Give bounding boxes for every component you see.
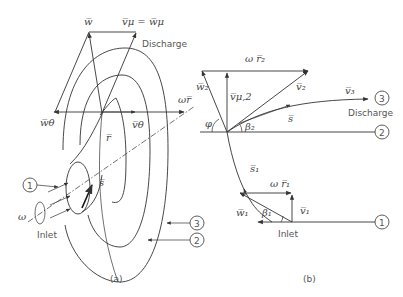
label-omega: ω bbox=[18, 211, 26, 222]
label-inlet-b: Inlet bbox=[278, 229, 298, 239]
label-v-mu2: v̅μ,2 bbox=[230, 91, 252, 102]
label-v-theta: v̅θ bbox=[132, 119, 144, 130]
w-vector bbox=[89, 33, 102, 113]
panel-a: w̅ v̅μ = w̅μ Discharge w̅θ v̅θ ωr̅ r̅ s̅… bbox=[18, 16, 204, 284]
label-discharge-b: Discharge bbox=[348, 108, 394, 118]
panel-b: 2 1 3 ω r̅₂ w̅₂ v̅μ,2 v̅₂ v̅₃ s̅ φ bbox=[196, 53, 394, 284]
marker-1-b-text: 1 bbox=[379, 218, 385, 228]
label-omega-r2: ω r̅₂ bbox=[245, 53, 265, 64]
caption-a: (a) bbox=[110, 274, 123, 284]
label-beta1: β₁ bbox=[261, 207, 272, 218]
marker-2-a-text: 2 bbox=[194, 236, 200, 246]
label-w2: w̅₂ bbox=[196, 81, 209, 92]
middle-ring-2 bbox=[80, 75, 150, 247]
inlet-flow-arrow-1 bbox=[48, 183, 68, 192]
label-s: s̅ bbox=[99, 177, 105, 188]
label-v1: v̅₁ bbox=[300, 205, 310, 216]
marker-1-pointer bbox=[37, 185, 58, 187]
label-r: r̅ bbox=[106, 132, 112, 143]
caption-b: (b) bbox=[303, 274, 316, 284]
label-v3: v̅₃ bbox=[345, 85, 355, 96]
marker-3-a-text: 3 bbox=[194, 219, 200, 229]
marker-1-a-text: 1 bbox=[27, 181, 33, 191]
label-beta2: β₂ bbox=[244, 121, 255, 132]
inlet-flow-arrow-3 bbox=[50, 209, 70, 218]
label-discharge-a: Discharge bbox=[142, 39, 188, 49]
w-side-line bbox=[55, 32, 89, 112]
label-omega-r1: ω r̅₁ bbox=[270, 178, 290, 189]
label-v2: v̅₂ bbox=[296, 81, 306, 92]
label-s1: s̅₁ bbox=[250, 163, 259, 174]
label-w-theta: w̅θ bbox=[40, 117, 55, 128]
label-w: w̅ bbox=[84, 16, 93, 27]
label-phi: φ bbox=[205, 118, 212, 129]
label-inlet-a: Inlet bbox=[37, 230, 57, 240]
inlet-tube-top bbox=[70, 112, 103, 164]
label-v-mu-eq-w-mu: v̅μ = w̅μ bbox=[122, 16, 164, 27]
label-w1: w̅₁ bbox=[236, 207, 249, 218]
v-mu-vector bbox=[102, 33, 136, 113]
diagram-canvas: w̅ v̅μ = w̅μ Discharge w̅θ v̅θ ωr̅ r̅ s̅… bbox=[0, 0, 403, 297]
marker-3-b-text: 3 bbox=[379, 94, 385, 104]
inlet-ellipse bbox=[66, 162, 90, 214]
phi-arc bbox=[212, 119, 219, 132]
marker-2-b-text: 2 bbox=[379, 128, 385, 138]
label-omega-r: ωr̅ bbox=[178, 94, 192, 105]
omega-rotation-ellipse bbox=[35, 202, 45, 224]
label-s-b: s̅ bbox=[288, 113, 294, 124]
